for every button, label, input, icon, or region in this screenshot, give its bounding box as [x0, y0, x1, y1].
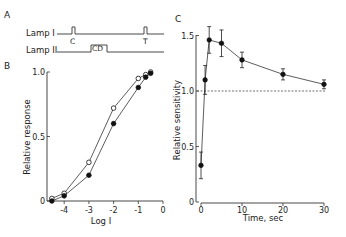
b-x-tick-label: 0 [160, 206, 165, 215]
filled-circle-marker [143, 75, 148, 80]
c-x-tick-label: 0 [198, 206, 203, 215]
filled-circle-marker [240, 58, 245, 63]
filled-circle-marker [199, 163, 204, 168]
filled-circle-marker [87, 173, 92, 178]
panel-c: C 00.51.01.5 0102030 Relative sensitivit… [172, 14, 329, 223]
open-circle-marker [111, 106, 116, 111]
c-x-label: Time, sec [242, 213, 284, 223]
b-series [50, 70, 153, 204]
open-circle-marker [87, 160, 92, 165]
c-y-tick-label: 1.0 [181, 87, 194, 96]
b-x-tick-label: -3 [85, 206, 93, 215]
filled-circle-marker [281, 72, 286, 77]
panel-a-label: A [4, 10, 11, 20]
filled-circle-marker [136, 85, 141, 90]
b-x-tick-label: -1 [134, 206, 142, 215]
figure: A Lamp I Lamp II C T CD B 00.51.0 -4-3-2… [0, 0, 346, 237]
c-y-tick-label: 0.5 [181, 143, 194, 152]
panel-b: B 00.51.0 -4-3-2-10 Relative response Lo… [4, 61, 166, 226]
b-x-ticks: -4-3-2-10 [60, 201, 165, 215]
filled-circle-marker [207, 38, 212, 43]
b-x-label: Log I [91, 216, 111, 226]
c-y-tick-label: 1.5 [181, 32, 194, 41]
c-y-label: Relative sensitivity [172, 80, 182, 160]
c-y-tick-label: 0 [189, 198, 194, 207]
filled-circle-marker [148, 71, 153, 76]
b-y-tick-label: 0.5 [32, 133, 45, 142]
pulse-c-label: C [70, 37, 75, 46]
b-y-tick-label: 0 [40, 197, 45, 206]
b-y-tick-label: 1.0 [32, 68, 45, 77]
b-y-label: Relative response [22, 99, 32, 175]
lamp2-trace [57, 45, 164, 52]
panel-c-label: C [175, 14, 181, 24]
filled-circle-marker [50, 199, 55, 204]
lamp2-label: Lamp II [26, 45, 57, 55]
panel-b-label: B [4, 61, 10, 71]
b-x-tick-label: -4 [60, 206, 68, 215]
filled-circle-marker [219, 41, 224, 46]
filled-circle-marker [322, 82, 327, 87]
open-circle-marker [136, 76, 141, 81]
panel-a: A Lamp I Lamp II C T CD [4, 10, 164, 55]
filled-circle-marker [111, 121, 116, 126]
c-x-tick-label: 30 [319, 206, 329, 215]
filled-circle-marker [62, 194, 67, 199]
lamp1-label: Lamp I [26, 28, 55, 38]
c-series [199, 27, 327, 179]
lamp1-trace [57, 27, 164, 34]
filled-circle-marker [203, 78, 208, 83]
b-x-tick-label: -2 [110, 206, 118, 215]
cd-label: CD [92, 44, 103, 53]
pulse-t-label: T [142, 37, 148, 46]
